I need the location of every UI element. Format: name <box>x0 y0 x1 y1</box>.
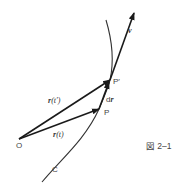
curve-velocity-diagram: O P P′ v r(t′) r(t) dr C 図 2–1 <box>0 0 188 189</box>
vector-v <box>110 13 134 80</box>
r-symbol: r <box>110 95 114 104</box>
label-r-t-prime: r(t′) <box>48 96 61 105</box>
label-origin: O <box>16 141 22 150</box>
label-r-t: r(t) <box>53 130 64 139</box>
label-v: v <box>128 26 132 35</box>
label-p-prime: P′ <box>113 77 120 86</box>
label-dr: dr <box>106 95 114 104</box>
figure-caption: 図 2–1 <box>146 141 172 151</box>
label-curve-c: C <box>52 165 58 174</box>
r-t-prime-arg: (t′) <box>51 96 61 105</box>
r-t-arg: (t) <box>56 130 64 139</box>
label-p: P <box>104 108 109 117</box>
